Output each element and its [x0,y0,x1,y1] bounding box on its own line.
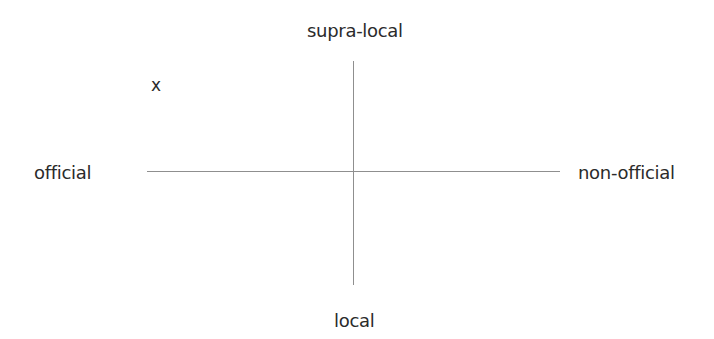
axis-label-supra-local: supra-local [307,20,403,42]
x-marker-icon: x [151,75,161,95]
axis-label-non-official: non-official [578,162,675,184]
axis-label-local: local [334,310,374,332]
vertical-axis-line [353,61,354,285]
axis-label-official: official [34,162,91,184]
